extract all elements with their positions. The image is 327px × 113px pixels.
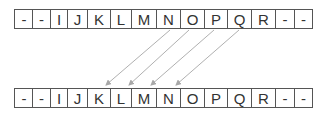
arrow-q-to-n: [176, 30, 239, 85]
arrows-layer: [0, 0, 327, 113]
